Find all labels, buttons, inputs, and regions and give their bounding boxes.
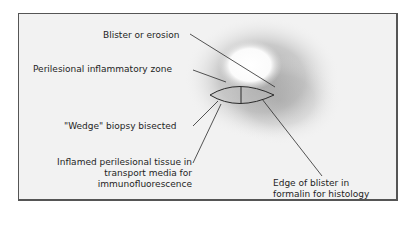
label-wedge-biopsy-bisected: "Wedge" biopsy bisected [64,121,177,132]
edge-line-1: Edge of blister in [273,178,369,189]
edge-line-2: formalin for histology [273,189,369,200]
inflamed-line-1: Inflamed perilesional tissue in [38,157,192,168]
label-blister-or-erosion: Blister or erosion [103,30,180,41]
label-edge-of-blister: Edge of blister in formalin for histolog… [273,178,369,200]
label-inflamed-perilesional-tissue: Inflamed perilesional tissue in transpor… [38,157,192,190]
label-perilesional-inflammatory-zone: Perilesional inflammatory zone [33,64,172,75]
inflamed-line-2: transport media for [38,168,192,179]
inflamed-line-3: immunofluorescence [38,179,192,190]
blister-center [218,40,282,90]
